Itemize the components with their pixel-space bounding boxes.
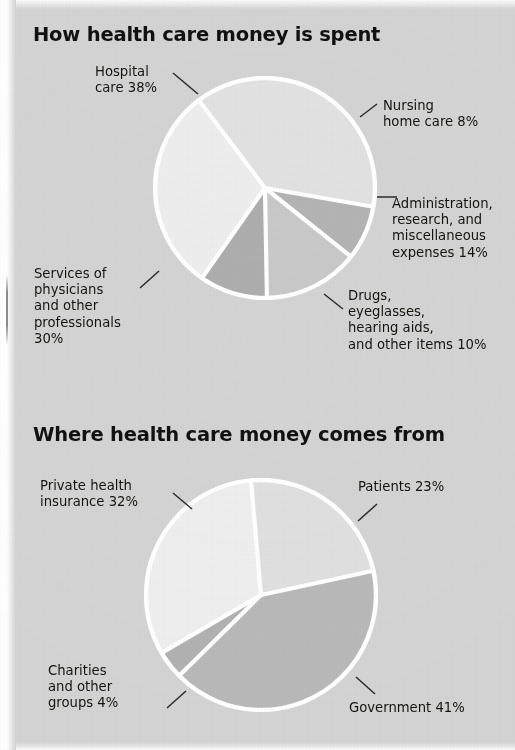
callout-government: Government 41% xyxy=(349,700,509,716)
page-edge-top xyxy=(0,0,515,9)
callout-hospital-care: Hospital care 38% xyxy=(95,64,200,96)
callout-administration: Administration, research, and miscellane… xyxy=(392,196,512,261)
leader-government xyxy=(355,676,377,696)
callout-services-of-physicians: Services of physicians and other profess… xyxy=(34,266,154,347)
chart-title-sources: Where health care money comes from xyxy=(33,423,445,446)
callout-drugs: Drugs, eyeglasses, hearing aids, and oth… xyxy=(348,288,513,353)
figure-page: How health care money is spent Hospital … xyxy=(0,0,515,750)
leader-patients xyxy=(357,503,379,523)
chart-title-spending: How health care money is spent xyxy=(33,23,380,46)
callout-private-health-insurance: Private health insurance 32% xyxy=(40,478,180,510)
callout-charities: Charities and other groups 4% xyxy=(48,663,173,712)
pie-chart-spending-render xyxy=(153,76,377,300)
leader-administration xyxy=(376,186,398,192)
callout-patients: Patients 23% xyxy=(358,479,498,495)
page-edge-bottom xyxy=(0,742,515,750)
leader-drugs xyxy=(323,293,345,311)
leader-nursing-home-care xyxy=(359,103,379,119)
page-margin-mark xyxy=(6,275,8,345)
pie-chart-sources-render xyxy=(144,478,378,712)
callout-nursing-home-care: Nursing home care 8% xyxy=(383,98,513,130)
page-edge-left xyxy=(0,0,16,750)
